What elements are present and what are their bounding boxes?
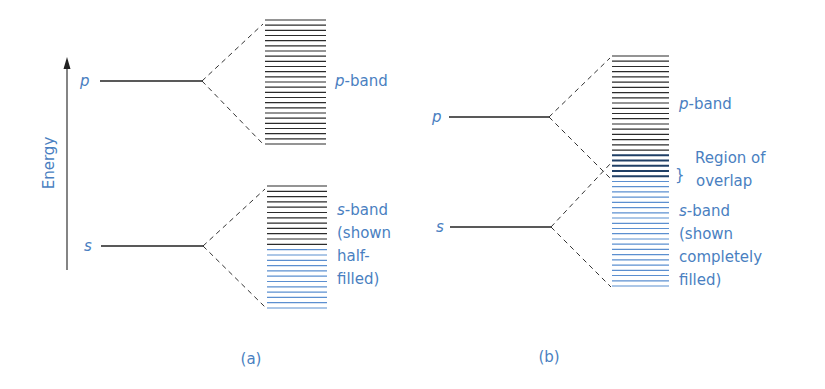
- s-band-note-a-3: filled): [337, 270, 379, 288]
- s-band-note-b-3: filled): [679, 271, 721, 289]
- overlap-label-1: Region of: [695, 149, 766, 167]
- s-level-label-b: s: [436, 218, 444, 236]
- p-level-label-a: p: [79, 72, 90, 90]
- overlap-brace: }: [675, 166, 685, 184]
- s-band-label-a: s-band: [337, 201, 388, 219]
- overlap-label-2: overlap: [696, 172, 752, 190]
- p-split-upper-a: [202, 24, 263, 81]
- caption-a: (a): [241, 350, 262, 368]
- p-band-label-a: p-band: [334, 72, 388, 90]
- caption-b: (b): [538, 348, 559, 366]
- s-split-upper-b: [551, 163, 611, 227]
- s-band-levels-a: [267, 186, 327, 308]
- s-band-note-b-1: (shown: [679, 225, 733, 243]
- arrow-up-icon: [64, 57, 71, 69]
- combined-band-levels-b: [612, 56, 669, 286]
- p-split-upper-b: [549, 58, 610, 117]
- s-band-note-b-2: completely: [679, 248, 762, 266]
- panel-b: p s p-band } Region of overlap s-band (s…: [431, 56, 766, 366]
- p-band-levels-a: [265, 20, 326, 144]
- s-split-lower-a: [203, 246, 265, 307]
- panel-a: Energy p p-band s s-band (shown half- fi…: [40, 20, 391, 368]
- energy-axis: Energy: [40, 57, 71, 270]
- energy-axis-label: Energy: [40, 137, 58, 190]
- band-diagram: Energy p p-band s s-band (shown half- fi…: [0, 0, 825, 389]
- p-split-lower-b: [549, 117, 611, 179]
- p-split-lower-a: [202, 81, 263, 144]
- s-split-upper-a: [203, 189, 265, 246]
- s-band-note-a-2: half-: [337, 247, 370, 265]
- p-level-label-b: p: [431, 108, 442, 126]
- s-band-note-a-1: (shown: [337, 224, 391, 242]
- s-band-label-b: s-band: [679, 202, 730, 220]
- p-band-label-b: p-band: [678, 95, 732, 113]
- s-split-lower-b: [551, 227, 611, 287]
- s-level-label-a: s: [84, 237, 92, 255]
